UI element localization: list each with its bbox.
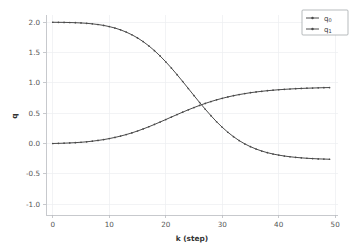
legend-marker-dot-icon — [311, 28, 314, 31]
legend-marker-dot-icon — [311, 17, 314, 20]
chart-legend[interactable]: q0q1 — [302, 10, 348, 35]
x-tick-label: 20 — [161, 220, 171, 229]
x-axis-title: k (step) — [176, 234, 208, 243]
y-tick-label: 2.0 — [29, 18, 41, 27]
y-tick-label: 1.0 — [29, 78, 41, 87]
x-tick-label: 50 — [331, 220, 341, 229]
chart-plot-svg: 01020304050 2.01.51.00.50.0-0.5-1.0 k (s… — [0, 0, 355, 246]
x-tick-label: 30 — [218, 220, 228, 229]
y-tick-label: 0.0 — [29, 139, 41, 148]
x-tick-label: 0 — [50, 220, 55, 229]
y-axis-title: q — [10, 113, 19, 118]
x-tick-label: 40 — [274, 220, 284, 229]
y-tick-label: 1.5 — [29, 48, 40, 57]
y-tick-label: -0.5 — [26, 169, 40, 178]
chart-figure: 01020304050 2.01.51.00.50.0-0.5-1.0 k (s… — [0, 0, 355, 246]
x-tick-label: 10 — [105, 220, 115, 229]
y-tick-label: 0.5 — [29, 109, 40, 118]
plot-area-background — [46, 15, 338, 215]
y-tick-label: -1.0 — [26, 200, 40, 209]
